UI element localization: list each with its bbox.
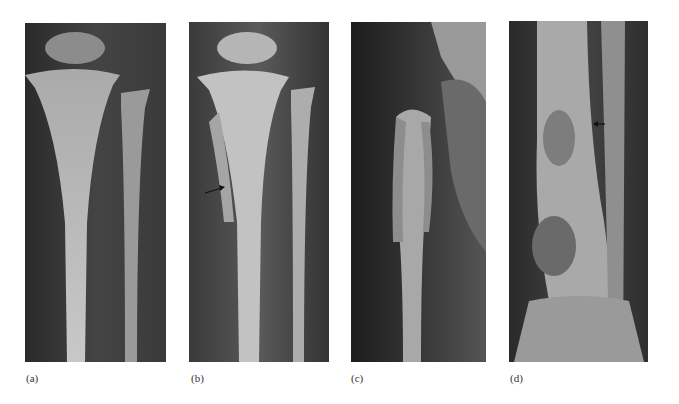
panel-label-d: (d) — [510, 372, 523, 384]
panel-label-b: (b) — [191, 372, 204, 384]
panel-label-c: (c) — [351, 372, 363, 384]
xray-image-b — [189, 22, 329, 362]
radiograph-panel-d — [509, 21, 648, 362]
radiograph-panel-c — [351, 22, 486, 362]
xray-image-c — [351, 22, 486, 362]
xray-image-a — [25, 23, 166, 362]
radiograph-panel-a — [25, 23, 166, 362]
radiograph-panel-b — [189, 22, 329, 362]
panel-label-a: (a) — [26, 372, 38, 384]
xray-image-d — [509, 21, 648, 362]
